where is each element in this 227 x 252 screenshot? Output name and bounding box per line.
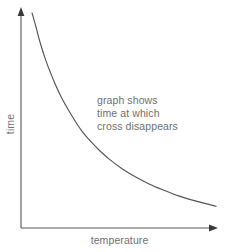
annotation-line-2: time at which bbox=[97, 107, 178, 120]
y-axis-arrow-icon bbox=[18, 7, 25, 16]
graph-figure: time temperature graph shows time at whi… bbox=[0, 0, 227, 252]
x-axis-arrow-icon bbox=[209, 225, 218, 232]
y-axis-label: time bbox=[4, 104, 16, 144]
chart-annotation: graph shows time at which cross disappea… bbox=[97, 94, 178, 133]
x-axis-label: temperature bbox=[21, 234, 218, 246]
annotation-line-3: cross disappears bbox=[97, 120, 178, 133]
annotation-line-1: graph shows bbox=[97, 94, 178, 107]
